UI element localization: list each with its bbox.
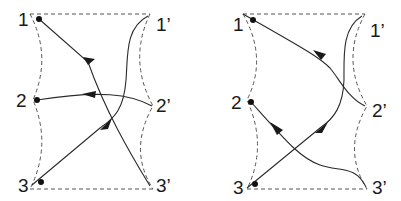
- arrow-head-icon: [83, 57, 95, 65]
- connection-3prime-to-1: [39, 19, 150, 186]
- point-1-dot: [250, 17, 256, 23]
- connection-1prime-to-3: [247, 16, 362, 188]
- label-1-prime: 1’: [370, 20, 385, 41]
- point-1-dot: [36, 16, 42, 22]
- point-3-dot: [252, 181, 258, 187]
- label-2-prime: 2’: [156, 95, 171, 116]
- label-1: 1: [18, 9, 29, 30]
- permutation-diagram: 1 2 3 1’ 2’ 3’ 1 2 3 1’ 2’ 3’: [0, 0, 401, 201]
- right-panel: 1 2 3 1’ 2’ 3’: [231, 14, 387, 198]
- label-2: 2: [231, 92, 242, 113]
- label-3: 3: [233, 177, 244, 198]
- label-3-prime: 3’: [372, 177, 387, 198]
- connection-1prime-to-3: [32, 16, 148, 185]
- connection-3prime-to-2: [251, 102, 366, 187]
- label-1-prime: 1’: [156, 14, 171, 35]
- label-2-prime: 2’: [372, 100, 387, 121]
- label-3: 3: [18, 175, 29, 196]
- arrow-head-icon: [313, 50, 326, 60]
- arrow-head-icon: [270, 122, 283, 135]
- label-2: 2: [16, 90, 27, 111]
- point-3-dot: [38, 179, 44, 185]
- arrow-head-icon: [82, 91, 96, 98]
- left-panel: 1 2 3 1’ 2’ 3’: [16, 9, 171, 196]
- arrow-head-icon: [100, 118, 112, 130]
- right-dashed-boundary: [353, 14, 367, 189]
- connection-2prime-to-1: [243, 14, 365, 106]
- label-1: 1: [233, 14, 244, 35]
- point-2-dot: [248, 99, 254, 105]
- label-3-prime: 3’: [156, 175, 171, 196]
- point-2-dot: [34, 97, 40, 103]
